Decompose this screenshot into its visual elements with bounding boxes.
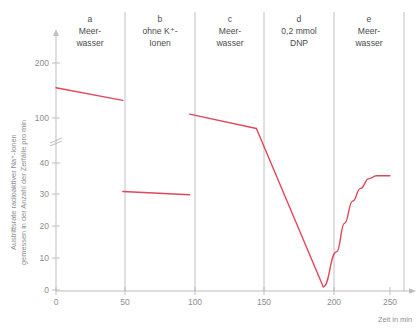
chart-svg: 200 100 40 30 20 10 0 0 50 100 150 200 2… xyxy=(0,0,419,329)
x-tick-label-100: 100 xyxy=(188,297,202,307)
panel-e-label-line1: Meer- xyxy=(358,26,381,36)
y-tick-label-200: 200 xyxy=(35,58,49,68)
panel-d-label-line1: 0,2 mmol xyxy=(281,26,316,36)
y-axis-title-line1-end: -Ionen xyxy=(9,134,18,155)
x-tick-label-0: 0 xyxy=(54,297,59,307)
panel-b-label-line1: ohne K⁺- xyxy=(142,26,177,36)
y-axis-arrow-icon xyxy=(53,29,59,36)
x-axis-arrow-icon xyxy=(409,288,416,294)
y-tick-label-10: 10 xyxy=(40,253,50,263)
y-axis-title-line2: gemessen in der Anzahl der Zerfälle pro … xyxy=(19,120,28,265)
panel-header-a: a Meer- wasser xyxy=(75,14,103,48)
panel-e-letter: e xyxy=(367,14,372,24)
data-line-panel-c xyxy=(190,114,257,128)
panel-header-d: d 0,2 mmol DNP xyxy=(281,14,316,48)
panel-b-letter: b xyxy=(158,14,163,24)
chart-figure: 200 100 40 30 20 10 0 0 50 100 150 200 2… xyxy=(0,0,419,329)
y-axis-title-line1-main: Austrittsrate radioaktiver Na xyxy=(9,158,18,250)
panel-header-e: e Meer- wasser xyxy=(354,14,382,48)
panel-b-label-line2: Ionen xyxy=(149,38,171,48)
panel-header-c: c Meer- wasser xyxy=(215,14,243,48)
x-tick-label-150: 150 xyxy=(257,297,271,307)
panel-a-letter: a xyxy=(88,14,93,24)
panel-c-label-line2: wasser xyxy=(215,38,243,48)
data-line-panel-b xyxy=(123,192,190,195)
x-tick-label-200: 200 xyxy=(327,297,341,307)
panel-a-label-line2: wasser xyxy=(75,38,103,48)
y-tick-label-100: 100 xyxy=(35,113,49,123)
panel-a-label-line1: Meer- xyxy=(79,26,102,36)
panel-header-b: b ohne K⁺- Ionen xyxy=(142,14,177,48)
x-axis-title: Zeit in min xyxy=(378,315,412,324)
panel-e-label-line2: wasser xyxy=(354,38,382,48)
data-line-panel-d xyxy=(256,128,323,286)
y-tick-label-20: 20 xyxy=(40,221,50,231)
data-line-panel-a xyxy=(56,88,123,101)
panel-c-label-line1: Meer- xyxy=(219,26,242,36)
y-tick-label-0: 0 xyxy=(44,285,49,295)
y-tick-label-40: 40 xyxy=(40,158,50,168)
data-line-panel-e xyxy=(323,176,390,287)
panel-d-letter: d xyxy=(297,14,302,24)
panel-dividers xyxy=(125,12,404,291)
panel-d-label-line2: DNP xyxy=(290,38,308,48)
x-tick-label-50: 50 xyxy=(120,297,130,307)
panel-c-letter: c xyxy=(228,14,233,24)
data-series-group xyxy=(56,88,390,287)
y-tick-label-30: 30 xyxy=(40,189,50,199)
x-tick-label-250: 250 xyxy=(383,297,397,307)
y-axis-title-line1: Austrittsrate radioaktiver Na+-Ionen xyxy=(9,134,19,250)
